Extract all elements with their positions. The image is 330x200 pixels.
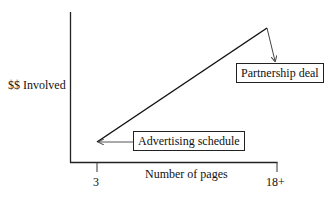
callout-advertising-schedule: Advertising schedule (133, 131, 245, 151)
x-tick-label-low: 3 (93, 176, 99, 188)
y-axis-label: $$ Involved (8, 79, 66, 91)
trend-line (97, 28, 267, 142)
callout-arrow-high (267, 28, 275, 61)
callout-partnership-deal: Partnership deal (236, 63, 324, 83)
x-tick-label-high: 18+ (266, 176, 285, 188)
x-axis-label: Number of pages (145, 168, 228, 180)
